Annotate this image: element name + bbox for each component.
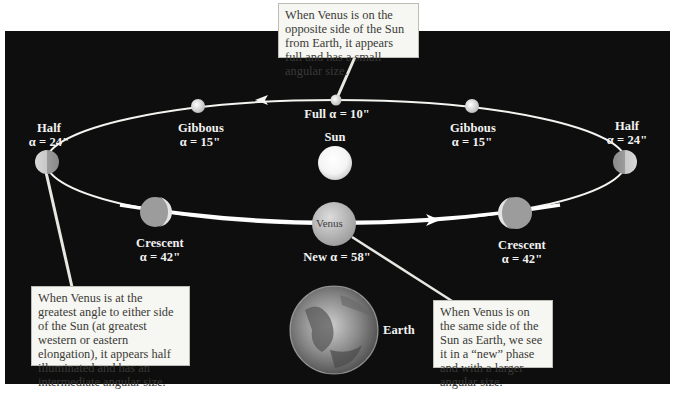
left-callout-pointer [46, 172, 72, 287]
venus-gibbous-left-icon [191, 99, 205, 113]
label-gibbous-left: Gibbous α = 15" [178, 121, 222, 149]
label-full: Full α = 10" [300, 107, 374, 121]
new-phase-label: New α = 58" [300, 250, 374, 264]
earth-icon [290, 286, 378, 374]
angular-size: α = 15" [178, 135, 222, 149]
angular-size: α = 42" [132, 250, 188, 264]
callout-top-full-phase: When Venus is on the opposite side of th… [278, 3, 419, 58]
label-new: New α = 58" [300, 250, 374, 264]
venus-half-right-icon [613, 150, 637, 174]
label-half-left: Half α = 24" [24, 121, 74, 149]
callout-left-half-phase: When Venus is at the greatest angle to e… [31, 286, 190, 366]
label-crescent-left: Crescent α = 42" [132, 236, 188, 264]
venus-planet-text: Venus [316, 217, 343, 229]
full-phase-label: Full α = 10" [300, 107, 374, 121]
phase-name: Half [602, 119, 652, 133]
venus-crescent-right-icon [498, 197, 532, 229]
phase-name: Crescent [494, 238, 550, 252]
label-earth: Earth [383, 323, 413, 337]
venus-half-left-icon [35, 150, 59, 174]
angular-size: α = 42" [494, 252, 550, 266]
orbit-arrow-top-icon [255, 95, 268, 105]
phase-name: Gibbous [450, 121, 494, 135]
phase-name: Gibbous [178, 121, 222, 135]
angular-size: α = 24" [24, 135, 74, 149]
venus-crescent-left-icon [140, 197, 172, 227]
sun-icon [318, 146, 352, 180]
label-half-right: Half α = 24" [602, 119, 652, 147]
venus-gibbous-right-icon [465, 99, 479, 113]
venus-full-icon [331, 95, 342, 106]
callout-right-new-phase: When Venus is on the same side of the Su… [433, 300, 553, 368]
angular-size: α = 15" [450, 135, 494, 149]
label-gibbous-right: Gibbous α = 15" [450, 121, 494, 149]
right-callout-pointer [352, 237, 452, 301]
label-sun: Sun [320, 130, 350, 144]
phase-name: Crescent [132, 236, 188, 250]
angular-size: α = 24" [602, 133, 652, 147]
phase-name: Half [24, 121, 74, 135]
label-crescent-right: Crescent α = 42" [494, 238, 550, 266]
